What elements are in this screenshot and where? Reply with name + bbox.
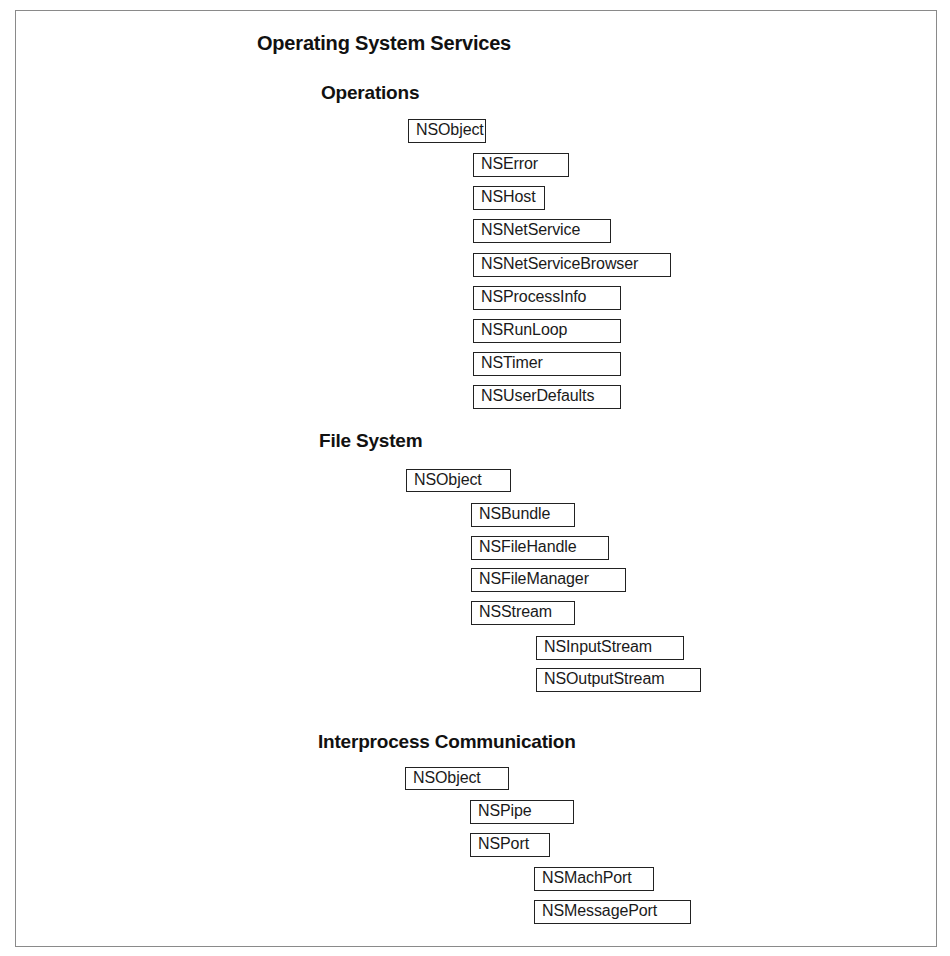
class-box-nsinputstream: NSInputStream (536, 636, 684, 660)
class-box-nsbundle: NSBundle (471, 503, 575, 527)
section-heading-interprocess-communication: Interprocess Communication (318, 732, 576, 751)
class-box-nsobject: NSObject (408, 119, 486, 143)
class-box-nsprocessinfo: NSProcessInfo (473, 286, 621, 310)
class-box-nshost: NSHost (473, 186, 545, 210)
class-box-nsnetservice: NSNetService (473, 219, 611, 243)
class-box-nspipe: NSPipe (470, 800, 574, 824)
class-box-nserror: NSError (473, 153, 569, 177)
class-box-nstimer: NSTimer (473, 352, 621, 376)
class-box-nsstream: NSStream (471, 601, 575, 625)
class-box-nsmachport: NSMachPort (534, 867, 654, 891)
class-box-nsuserdefaults: NSUserDefaults (473, 385, 621, 409)
diagram-title: Operating System Services (257, 33, 511, 53)
class-box-nsnetservicebrowser: NSNetServiceBrowser (473, 253, 671, 277)
class-box-nsobject: NSObject (405, 767, 509, 790)
class-box-nsfilehandle: NSFileHandle (471, 536, 609, 560)
class-box-nsrunloop: NSRunLoop (473, 319, 621, 343)
class-box-nsobject: NSObject (406, 469, 511, 492)
class-box-nsoutputstream: NSOutputStream (536, 668, 701, 692)
class-box-nsport: NSPort (470, 833, 550, 857)
class-box-nsmessageport: NSMessagePort (534, 900, 691, 924)
section-heading-operations: Operations (321, 83, 419, 102)
section-heading-file-system: File System (319, 431, 422, 450)
class-box-nsfilemanager: NSFileManager (471, 568, 626, 592)
